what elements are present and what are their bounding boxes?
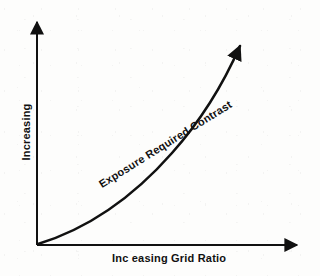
x-axis-label: Inc easing Grid Ratio [112,252,226,264]
y-axis-label: Increasing [20,97,32,167]
exposure-required-contrast-curve [38,46,240,244]
plot-canvas [0,0,320,276]
figure-container: Increasing Inc easing Grid Ratio Exposur… [0,0,320,276]
